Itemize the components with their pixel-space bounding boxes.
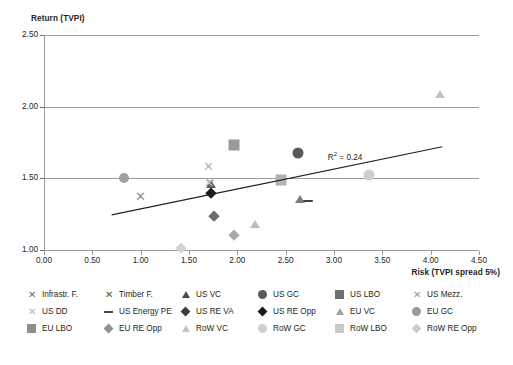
legend-item-infrastr-f[interactable]: ✕Infrastr. F. — [26, 289, 103, 300]
data-point — [275, 174, 286, 185]
legend-label: EU RE Opp — [119, 324, 162, 333]
legend-label: US DD — [42, 307, 67, 316]
legend-label: EU GC — [427, 307, 453, 316]
legend-label: Timber F. — [119, 290, 153, 299]
legend-item-eu-gc[interactable]: EU GC — [411, 306, 488, 317]
data-point — [176, 242, 187, 253]
legend: ✕Infrastr. F.✕Timber F.US VCUS GCUS LBO✕… — [26, 286, 488, 337]
legend-item-timber-f[interactable]: ✕Timber F. — [103, 289, 180, 300]
x-tick-mark-4.50 — [479, 251, 480, 255]
legend-label: US RE VA — [196, 307, 234, 316]
data-point — [295, 195, 305, 203]
x-tick-label-1.50: 1.50 — [169, 256, 209, 265]
x-tick-label-3.00: 3.00 — [314, 256, 354, 265]
x-marker-icon: ✕ — [26, 306, 37, 317]
x-marker-icon: ✕ — [103, 289, 114, 300]
x-tick-mark-0.00 — [44, 251, 45, 255]
legend-item-us-re-va[interactable]: US RE VA — [180, 306, 257, 317]
square-marker-icon — [26, 323, 37, 334]
data-point — [229, 140, 240, 151]
legend-label: EU VC — [350, 307, 375, 316]
legend-label: RoW LBO — [350, 324, 387, 333]
data-point — [250, 220, 260, 228]
legend-item-us-mezz[interactable]: ✕US Mezz. — [411, 289, 488, 300]
dash-marker-icon — [103, 306, 114, 317]
x-tick-label-4.00: 4.00 — [411, 256, 451, 265]
gridline-y-1.50 — [44, 178, 479, 179]
gridline-y-2.00 — [44, 107, 479, 108]
x-tick-label-3.50: 3.50 — [362, 256, 402, 265]
x-tick-mark-3.00 — [334, 251, 335, 255]
x-tick-mark-1.00 — [141, 251, 142, 255]
x-tick-label-1.00: 1.00 — [121, 256, 161, 265]
y-tick-label-2.00: 2.00 — [8, 102, 38, 111]
triangle-marker-icon — [180, 323, 191, 334]
data-point — [119, 173, 129, 183]
square-marker-icon — [334, 323, 345, 334]
gridline-y-2.50 — [44, 35, 479, 36]
x-tick-mark-4.00 — [431, 251, 432, 255]
x-tick-mark-0.50 — [92, 251, 93, 255]
triangle-marker-icon — [334, 306, 345, 317]
legend-item-eu-vc[interactable]: EU VC — [334, 306, 411, 317]
legend-item-eu-re-opp[interactable]: EU RE Opp — [103, 323, 180, 334]
y-axis-title: Return (TVPI) — [31, 14, 85, 23]
r-squared-annotation: R2 = 0.24 — [328, 151, 363, 162]
x-marker-icon: ✕ — [26, 289, 37, 300]
legend-item-us-dd[interactable]: ✕US DD — [26, 306, 103, 317]
data-point: ✕ — [203, 177, 216, 189]
gridline-y-1.00 — [44, 250, 479, 251]
legend-label: US RE Opp — [273, 307, 316, 316]
legend-item-row-vc[interactable]: RoW VC — [180, 323, 257, 334]
legend-label: RoW VC — [196, 324, 228, 333]
x-tick-mark-2.00 — [237, 251, 238, 255]
legend-label: US GC — [273, 290, 299, 299]
legend-label: US Mezz. — [427, 290, 463, 299]
chart-canvas: Return (TVPI) Risk (TVPI spread 5%) 1.00… — [0, 0, 513, 365]
legend-label: US VC — [196, 290, 221, 299]
legend-label: Infrastr. F. — [42, 290, 78, 299]
legend-item-eu-lbo[interactable]: EU LBO — [26, 323, 103, 334]
legend-item-us-re-opp[interactable]: US RE Opp — [257, 306, 334, 317]
legend-item-us-vc[interactable]: US VC — [180, 289, 257, 300]
x-tick-mark-1.50 — [189, 251, 190, 255]
legend-item-row-lbo[interactable]: RoW LBO — [334, 323, 411, 334]
x-tick-label-0.50: 0.50 — [72, 256, 112, 265]
legend-item-us-gc[interactable]: US GC — [257, 289, 334, 300]
data-point — [435, 90, 445, 98]
data-point: ✕ — [201, 160, 215, 173]
data-point: ✕ — [134, 190, 148, 203]
circle-marker-icon — [257, 289, 268, 300]
data-point — [229, 229, 240, 240]
circle-marker-icon — [257, 323, 268, 334]
legend-label: EU LBO — [42, 324, 72, 333]
x-tick-mark-3.50 — [382, 251, 383, 255]
y-tick-label-2.50: 2.50 — [8, 30, 38, 39]
x-marker-icon: ✕ — [411, 289, 422, 300]
legend-item-row-gc[interactable]: RoW GC — [257, 323, 334, 334]
data-point — [363, 169, 374, 180]
x-tick-label-0.00: 0.00 — [24, 256, 64, 265]
legend-label: US LBO — [350, 290, 380, 299]
legend-label: RoW RE Opp — [427, 324, 477, 333]
data-point — [293, 148, 304, 159]
legend-label: RoW GC — [273, 324, 306, 333]
x-tick-label-4.50: 4.50 — [459, 256, 499, 265]
diamond-marker-icon — [257, 306, 268, 317]
x-tick-label-2.50: 2.50 — [266, 256, 306, 265]
y-tick-label-1.00: 1.00 — [8, 245, 38, 254]
triangle-marker-icon — [180, 289, 191, 300]
x-axis-title: Risk (TVPI spread 5%) — [411, 268, 500, 277]
square-marker-icon — [334, 289, 345, 300]
diamond-marker-icon — [411, 323, 422, 334]
legend-item-us-energy-pe[interactable]: US Energy PE — [103, 306, 180, 317]
data-point — [209, 210, 220, 221]
legend-label: US Energy PE — [119, 307, 172, 316]
circle-marker-icon — [411, 306, 422, 317]
legend-item-row-re-opp[interactable]: RoW RE Opp — [411, 323, 488, 334]
diamond-marker-icon — [180, 306, 191, 317]
legend-item-us-lbo[interactable]: US LBO — [334, 289, 411, 300]
diamond-marker-icon — [103, 323, 114, 334]
x-tick-mark-2.50 — [286, 251, 287, 255]
plot-area: ✕✕✕✕ — [44, 35, 479, 250]
